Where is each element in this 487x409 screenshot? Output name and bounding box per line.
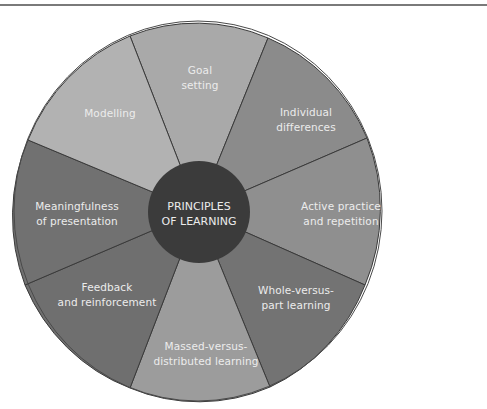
label-feedback: Feedback and reinforcement <box>47 280 167 310</box>
label-goal-setting: Goal setting <box>160 63 240 93</box>
label-modelling: Modelling <box>70 106 150 121</box>
label-line: differences <box>256 120 356 135</box>
label-line: part learning <box>246 298 346 313</box>
label-line: distributed learning <box>146 354 266 369</box>
label-line: Active practice <box>286 199 396 214</box>
label-line: Individual <box>256 105 356 120</box>
label-line: setting <box>160 78 240 93</box>
label-line: Whole-versus- <box>246 283 346 298</box>
label-line: and repetition <box>286 214 396 229</box>
label-line: Goal <box>160 63 240 78</box>
label-line: and reinforcement <box>47 295 167 310</box>
center-title-line2: OF LEARNING <box>149 214 249 229</box>
label-meaningfulness: Meaningfulness of presentation <box>22 199 132 229</box>
label-whole-versus-part: Whole-versus- part learning <box>246 283 346 313</box>
label-line: Meaningfulness <box>22 199 132 214</box>
label-line: of presentation <box>22 214 132 229</box>
label-massed-versus-distributed: Massed-versus- distributed learning <box>146 339 266 369</box>
label-line: Modelling <box>70 106 150 121</box>
center-title-line1: PRINCIPLES <box>149 199 249 214</box>
center-title: PRINCIPLES OF LEARNING <box>149 199 249 229</box>
label-active-practice: Active practice and repetition <box>286 199 396 229</box>
label-individual-differences: Individual differences <box>256 105 356 135</box>
label-line: Massed-versus- <box>146 339 266 354</box>
label-line: Feedback <box>47 280 167 295</box>
